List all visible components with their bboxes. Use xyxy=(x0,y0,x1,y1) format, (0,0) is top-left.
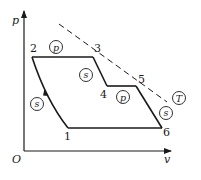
point-label-2: 2 xyxy=(30,42,37,55)
cycle-path xyxy=(32,57,162,128)
process-3-4 xyxy=(93,57,107,86)
circle-text-p-4-5: p xyxy=(120,92,126,103)
pv-diagram: p v O 1 2 3 4 5 6 p s p s s T xyxy=(0,0,201,180)
isotherm-dashed-line xyxy=(59,24,167,102)
circle-text-p-2-3: p xyxy=(53,42,59,53)
circled-label-texts: p s p s s T xyxy=(35,42,183,119)
process-1-2 xyxy=(32,57,68,128)
point-label-4: 4 xyxy=(100,88,107,101)
point-label-5: 5 xyxy=(138,73,145,86)
circle-text-s-5-6: s xyxy=(164,107,169,118)
x-axis-label: v xyxy=(164,153,171,166)
circle-text-T-isotherm: T xyxy=(176,93,183,104)
point-label-1: 1 xyxy=(64,130,71,143)
origin-label: O xyxy=(12,153,21,166)
point-label-6: 6 xyxy=(163,126,170,139)
process-5-6 xyxy=(136,86,162,128)
circle-text-s-1-2: s xyxy=(35,98,40,109)
point-label-3: 3 xyxy=(94,42,101,55)
y-axis-label: p xyxy=(12,14,19,27)
axes: p v O xyxy=(12,11,171,166)
circle-text-s-3-4: s xyxy=(84,69,89,80)
